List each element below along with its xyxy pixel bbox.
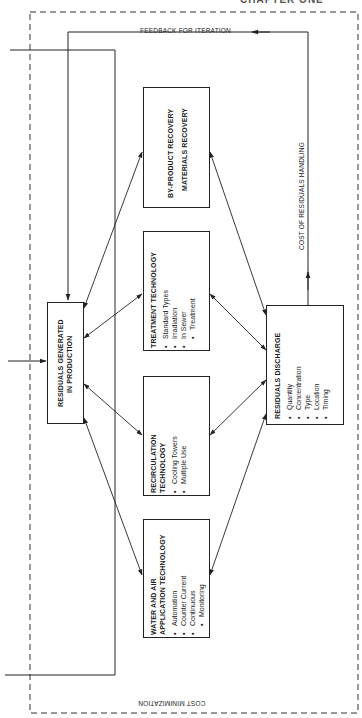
- residuals-generated-title-2: IN PRODUCTION: [65, 319, 74, 407]
- cost-minimization-label: COST MINIMIZATION: [138, 700, 205, 707]
- water-air-item: Automation: [170, 535, 179, 635]
- treatment-technology-box: TREATMENT TECHNOLOGY Standard Types Irra…: [143, 231, 210, 351]
- water-air-item: Monitoring: [197, 535, 206, 635]
- recirculation-title-2: TECHNOLOGY: [158, 434, 167, 493]
- treatment-item: Standard Types: [161, 252, 170, 348]
- water-air-technology-box: WATER AND AIR APPLICATION TECHNOLOGY Aut…: [143, 519, 210, 638]
- treatment-item: Treatment: [188, 252, 197, 348]
- recirculation-item: Cooling Towers: [170, 434, 179, 493]
- arrow-residuals-waterair: [84, 418, 142, 575]
- treatment-item: Irradiation: [170, 252, 179, 348]
- discharge-item: Concentration: [294, 333, 303, 419]
- arrow-residuals-recirculation: [84, 384, 142, 435]
- water-air-title-1: WATER AND AIR: [149, 535, 158, 635]
- treatment-item: In Sewer: [179, 252, 188, 348]
- feedback-label: FEEDBACK FOR ITERATION: [140, 27, 231, 34]
- discharge-item: Location: [312, 333, 321, 419]
- residuals-generated-box: RESIDUALS GENERATED IN PRODUCTION: [47, 302, 84, 424]
- discharge-item: Timing: [321, 333, 330, 419]
- residuals-generated-title-1: RESIDUALS GENERATED: [56, 319, 65, 407]
- water-air-title-2: APPLICATION TECHNOLOGY: [158, 535, 167, 635]
- page-header-cutoff: CHAPTER ONE: [240, 0, 324, 5]
- byproduct-recovery-box: BY-PRODUCT RECOVERY MATERIALS RECOVERY: [143, 87, 210, 208]
- recirculation-item: Multiple Use: [179, 434, 188, 493]
- residuals-discharge-box: RESIDUALS DISCHARGE Quantity Concentrati…: [266, 305, 344, 425]
- water-air-item: Counter Current: [179, 535, 188, 635]
- arrow-recirculation-discharge: [210, 380, 266, 435]
- cost-handling-label: COST OF RESIDUALS HANDLING: [298, 142, 305, 250]
- treatment-title: TREATMENT TECHNOLOGY: [149, 252, 158, 348]
- arrow-byproduct-discharge: [210, 152, 266, 315]
- discharge-title: RESIDUALS DISCHARGE: [273, 333, 282, 419]
- water-air-item: Continuous: [188, 535, 197, 635]
- recirculation-title-1: RECIRCULATION: [149, 434, 158, 493]
- recirculation-list: Cooling Towers Multiple Use: [170, 434, 188, 493]
- byproduct-title-1: BY-PRODUCT RECOVERY: [166, 108, 175, 198]
- arrow-residuals-treatment: [84, 294, 142, 338]
- byproduct-title-2: MATERIALS RECOVERY: [180, 108, 189, 198]
- treatment-list: Standard Types Irradiation In Sewer Trea…: [161, 252, 197, 348]
- discharge-item: Type: [303, 333, 312, 419]
- arrow-treatment-discharge: [210, 294, 266, 350]
- discharge-list: Quantity Concentration Type Location Tim…: [285, 333, 330, 419]
- residuals-management-diagram: CHAPTER ONE FEEDBACK FOR ITERATION COST …: [0, 0, 362, 718]
- arrow-waterair-discharge: [210, 414, 266, 575]
- water-air-list: Automation Counter Current Continuous Mo…: [170, 535, 206, 635]
- arrow-residuals-byproduct: [84, 152, 142, 308]
- recirculation-technology-box: RECIRCULATION TECHNOLOGY Cooling Towers …: [143, 376, 210, 496]
- discharge-item: Quantity: [285, 333, 294, 419]
